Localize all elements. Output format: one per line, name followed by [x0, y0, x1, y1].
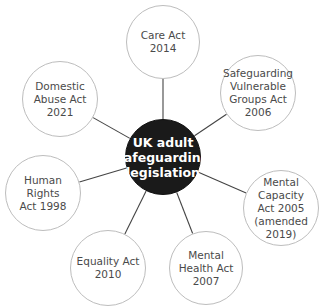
- connector-line: [195, 114, 227, 136]
- legislation-mind-map: UK adult safeguarding legislation Care A…: [0, 0, 320, 307]
- connector-line: [177, 192, 193, 233]
- node-equality-act-2010: Equality Act 2010: [70, 230, 146, 306]
- node-mental-capacity-act-2005: Mental Capacity Act 2005 (amended 2019): [243, 170, 319, 246]
- node-human-rights-act-1998: Human Rights Act 1998: [5, 155, 81, 231]
- node-mental-health-act-2007: Mental Health Act 2007: [169, 231, 243, 305]
- connector-line: [125, 191, 146, 234]
- center-node-uk-adult-safeguarding-legislation: UK adult safeguarding legislation: [125, 119, 201, 195]
- node-safeguarding-vulnerable-groups-act-2006: Safeguarding Vulnerable Groups Act 2006: [220, 55, 296, 131]
- node-care-act-2014: Care Act 2014: [126, 5, 200, 79]
- node-domestic-abuse-act-2021: Domestic Abuse Act 2021: [22, 61, 98, 137]
